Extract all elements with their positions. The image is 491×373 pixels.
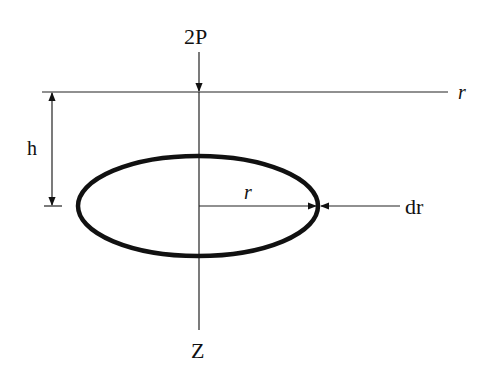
- radius-label: r: [244, 181, 252, 203]
- depth-label: h: [27, 137, 37, 159]
- load-label: 2P: [184, 24, 207, 49]
- r-axis-label: r: [458, 81, 466, 103]
- z-axis-label: Z: [191, 338, 204, 363]
- increment-label: dr: [405, 194, 424, 219]
- ring-load-diagram: r Z 2P h r dr: [0, 0, 491, 373]
